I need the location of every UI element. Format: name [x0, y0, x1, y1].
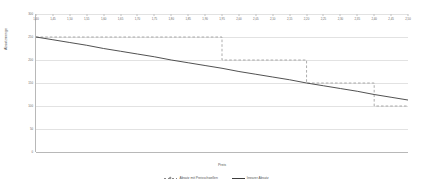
series-layer — [36, 14, 408, 152]
series-absatz-mit-preisschwellen — [36, 37, 408, 106]
x-axis-tick-mark — [137, 14, 138, 16]
x-axis-tick-label: 2,15 — [287, 18, 292, 21]
y-axis-tick-label: 50 — [30, 128, 33, 131]
x-axis-line — [36, 152, 408, 153]
x-axis-tick-label: 1,65 — [118, 18, 123, 21]
x-axis-tick-label: 1,40 — [33, 18, 38, 21]
x-axis-tick-mark — [238, 14, 239, 16]
x-axis-tick-label: 2,10 — [270, 18, 275, 21]
x-axis-tick-label: 2,35 — [355, 18, 360, 21]
x-axis-title: Preis — [36, 163, 408, 167]
x-axis-tick-label: 1,45 — [50, 18, 55, 21]
x-axis-tick-mark — [357, 14, 358, 16]
x-axis-tick-label: 1,55 — [84, 18, 89, 21]
x-axis-tick-label: 1,60 — [101, 18, 106, 21]
x-axis-tick-mark — [36, 14, 37, 16]
x-axis-tick-mark — [272, 14, 273, 16]
x-axis-tick-mark — [154, 14, 155, 16]
x-axis-tick-mark — [86, 14, 87, 16]
x-axis-tick-mark — [323, 14, 324, 16]
x-axis-tick-mark — [120, 14, 121, 16]
x-axis-tick-mark — [289, 14, 290, 16]
chart-container: 050100150200250300 1,401,451,501,551,601… — [0, 0, 433, 195]
x-axis-tick-label: 2,50 — [405, 18, 410, 21]
y-axis-tick-label: 300 — [28, 13, 33, 16]
x-axis-tick-mark — [374, 14, 375, 16]
x-axis-tick-label: 1,75 — [152, 18, 157, 21]
x-axis-tick-mark — [171, 14, 172, 16]
x-axis-tick-label: 2,45 — [388, 18, 393, 21]
x-axis-tick-mark — [391, 14, 392, 16]
x-axis-tick-label: 2,25 — [321, 18, 326, 21]
x-axis-tick-label: 2,20 — [304, 18, 309, 21]
y-axis-line — [35, 14, 36, 152]
x-axis-tick-label: 2,40 — [371, 18, 376, 21]
x-axis-tick-mark — [52, 14, 53, 16]
x-axis-tick-mark — [340, 14, 341, 16]
x-axis-tick-mark — [103, 14, 104, 16]
x-axis-tick-label: 1,90 — [202, 18, 207, 21]
x-axis-tick-label: 1,95 — [219, 18, 224, 21]
x-axis-tick-label: 1,50 — [67, 18, 72, 21]
y-axis-title: Absatzmenge — [4, 28, 8, 50]
chart-legend: Absatz mit Preisschwellen linearer Absat… — [0, 176, 433, 180]
x-axis-tick-label: 1,85 — [185, 18, 190, 21]
legend-label: Absatz mit Preisschwellen — [179, 176, 217, 180]
x-axis-tick-mark — [306, 14, 307, 16]
y-axis-tick-label: 250 — [28, 36, 33, 39]
legend-item-absatz-mit-preisschwellen: Absatz mit Preisschwellen — [164, 176, 217, 180]
x-axis-tick-mark — [408, 14, 409, 16]
y-axis-tick-label: 150 — [28, 82, 33, 85]
x-axis-tick-label: 2,30 — [338, 18, 343, 21]
y-axis-tick-label: 100 — [28, 105, 33, 108]
legend-label: linearer Absatz — [247, 176, 269, 180]
x-axis-tick-mark — [255, 14, 256, 16]
legend-swatch-dashed-icon — [164, 177, 177, 179]
y-axis-tick-label: 0 — [31, 151, 33, 154]
legend-swatch-solid-icon — [232, 177, 245, 179]
y-axis-tick-label: 200 — [28, 59, 33, 62]
x-axis-tick-mark — [188, 14, 189, 16]
x-axis-tick-label: 1,80 — [169, 18, 174, 21]
x-axis-tick-mark — [205, 14, 206, 16]
x-axis-tick-label: 2,00 — [236, 18, 241, 21]
legend-item-linearer-absatz: linearer Absatz — [232, 176, 269, 180]
x-axis-tick-mark — [69, 14, 70, 16]
plot-area: 050100150200250300 1,401,451,501,551,601… — [36, 14, 408, 152]
x-axis-tick-label: 1,70 — [135, 18, 140, 21]
x-axis-tick-mark — [222, 14, 223, 16]
x-axis-tick-label: 2,05 — [253, 18, 258, 21]
